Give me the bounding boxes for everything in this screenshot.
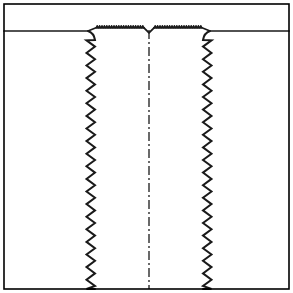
figure-root [0,0,293,293]
technical-diagram [0,0,293,293]
paper-background [0,0,293,293]
